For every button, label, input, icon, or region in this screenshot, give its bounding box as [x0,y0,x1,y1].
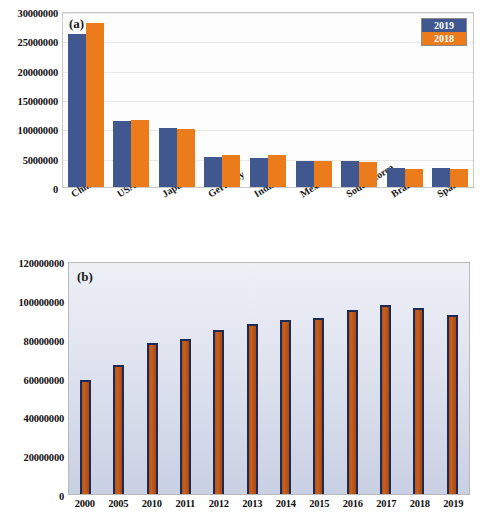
y-axis-tick-label: 20000000 [18,66,58,77]
x-axis-tick-label: 2017 [370,498,404,516]
x-axis-tick-label: 2012 [202,498,236,516]
bar-2019 [432,168,450,187]
panel-b-y-axis: 0200000004000000060000000800000001000000… [0,262,64,495]
x-axis-tick-label: 2010 [135,498,169,516]
x-axis-tick-label: 2000 [68,498,102,516]
panel-a-x-axis: ChinaUSAJapanGermanyIndiaMexicoSouth Kor… [62,190,474,238]
y-axis-tick-label: 80000000 [24,335,64,346]
panel-a-plot-area: (a) 2019 2018 [62,12,474,188]
panel-b-x-axis: 2000200520102011201220132014201520162017… [68,498,470,516]
bar-2019 [341,161,359,187]
bar-2018 [359,162,377,187]
bar-cell [336,263,369,494]
bar-cell [69,263,102,494]
bar-cell [236,263,269,494]
bar-2010 [147,343,158,494]
bar-2019 [159,128,177,187]
bar-2012 [213,330,224,494]
bar-cell [302,263,335,494]
y-axis-tick-label: 0 [53,184,58,195]
bar-group [63,13,109,187]
bar-cell [269,263,302,494]
bar-2019 [387,168,405,187]
panel-a-y-axis: 0500000010000000150000002000000025000000… [0,12,58,188]
y-axis-tick-label: 40000000 [24,413,64,424]
y-axis-tick-label: 0 [59,491,64,502]
y-axis-tick-label: 5000000 [23,154,58,165]
bar-group [154,13,200,187]
panel-b-label: (b) [77,269,93,285]
bar-2013 [247,324,258,494]
y-axis-tick-label: 20000000 [24,452,64,463]
y-axis-tick-label: 30000000 [18,8,58,19]
bar-2014 [280,320,291,494]
bar-group [336,13,382,187]
y-axis-tick-label: 10000000 [18,125,58,136]
bar-2005 [113,365,124,494]
bar-group [200,13,246,187]
legend-item-2019: 2019 [422,19,466,32]
legend-item-2018: 2018 [422,32,466,45]
bar-cell [136,263,169,494]
bar-2019 [250,158,268,187]
bar-2000 [80,380,91,494]
y-axis-tick-label: 120000000 [19,258,64,269]
bar-2019 [68,34,86,187]
panel-a-bars [63,13,473,187]
bar-2018 [405,169,423,187]
bar-2018 [314,161,332,187]
bar-2015 [313,318,324,494]
bar-2018 [450,169,468,187]
bar-2018 [131,120,149,187]
x-axis-tick-label: 2016 [336,498,370,516]
bar-cell [102,263,135,494]
x-axis-tick-label: 2013 [236,498,270,516]
bar-group [109,13,155,187]
bar-2018 [86,23,104,187]
bar-group [245,13,291,187]
figure-container: 0500000010000000150000002000000025000000… [0,0,480,521]
y-axis-tick-label: 15000000 [18,96,58,107]
bar-cell [169,263,202,494]
bar-2019 [296,161,314,187]
y-axis-tick-label: 100000000 [19,296,64,307]
bar-2018 [177,129,195,187]
bar-2011 [180,339,191,494]
x-axis-tick-label: 2019 [437,498,471,516]
panel-b-plot-area: (b) [68,262,470,495]
bar-cell [436,263,469,494]
bar-group [291,13,337,187]
bar-cell [369,263,402,494]
x-axis-tick-label: 2015 [303,498,337,516]
panel-a-label: (a) [69,16,84,32]
x-axis-tick-label: 2018 [403,498,437,516]
x-axis-tick-label: 2014 [269,498,303,516]
bar-2019 [113,121,131,187]
x-axis-tick-label: 2011 [169,498,203,516]
bar-2019 [447,315,458,494]
bar-2019 [204,157,222,187]
x-axis-tick-label: 2005 [102,498,136,516]
y-axis-tick-label: 25000000 [18,37,58,48]
bar-2018 [222,155,240,187]
bar-cell [402,263,435,494]
bar-2018 [413,308,424,494]
panel-b-bars [69,263,469,494]
panel-a-legend: 2019 2018 [421,18,467,46]
bar-2016 [347,310,358,494]
bar-2018 [268,155,286,187]
bar-2017 [380,305,391,494]
y-axis-tick-label: 60000000 [24,374,64,385]
bar-cell [202,263,235,494]
